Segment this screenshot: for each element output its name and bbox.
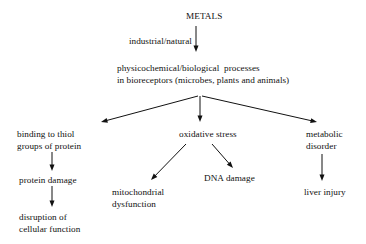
node-mitochondrial-dysfunction: mitochondrialdysfunction [112,186,164,211]
node-line: liver injury [304,186,346,198]
node-line: DNA damage [204,172,255,184]
node-line: oxidative stress [179,128,237,140]
node-protein-damage: protein damage [19,174,77,186]
node-line: in bioreceptors (microbes, plants and an… [117,74,289,86]
arrow-processes-to-binding [101,96,198,123]
node-metals: METALS [186,10,222,22]
node-oxidative-stress: oxidative stress [179,128,237,140]
node-line: mitochondrial [112,186,164,198]
node-disruption-of-cellular-function: disruption ofcellular function [19,211,80,236]
node-liver-injury: liver injury [304,186,346,198]
metals-toxicity-flowchart: METALS industrial/natural physicochemica… [0,0,366,244]
arrow-oxidative-to-dna [212,144,233,168]
node-binding-to-thiol-groups: binding to thiolgroups of protein [17,128,81,153]
node-line: dysfunction [112,198,164,210]
node-metabolic-disorder: metabolicdisorder [306,128,343,153]
arrow-processes-to-oxidative [198,96,203,122]
arrow-metals-to-processes [194,26,199,52]
arrow-metabolic-to-liver [320,154,325,181]
arrow-binding-to-protein-damage [50,152,55,171]
arrow-protein-damage-to-disruption [50,186,55,207]
node-line: groups of protein [17,140,81,152]
node-line: protein damage [19,174,77,186]
arrow-processes-to-metabolic [202,96,317,123]
node-physicochemical-processes: physicochemical/biological processesin b… [117,62,289,87]
node-dna-damage: DNA damage [204,172,255,184]
node-line: disorder [306,140,343,152]
node-line: physicochemical/biological processes [117,62,289,74]
node-line: metabolic [306,128,343,140]
node-line: cellular function [19,223,80,235]
node-line: binding to thiol [17,128,81,140]
arrow-oxidative-to-mitochondrial [151,144,186,180]
node-line: disruption of [19,211,80,223]
edge-label-industrial-natural: industrial/natural [129,35,192,47]
